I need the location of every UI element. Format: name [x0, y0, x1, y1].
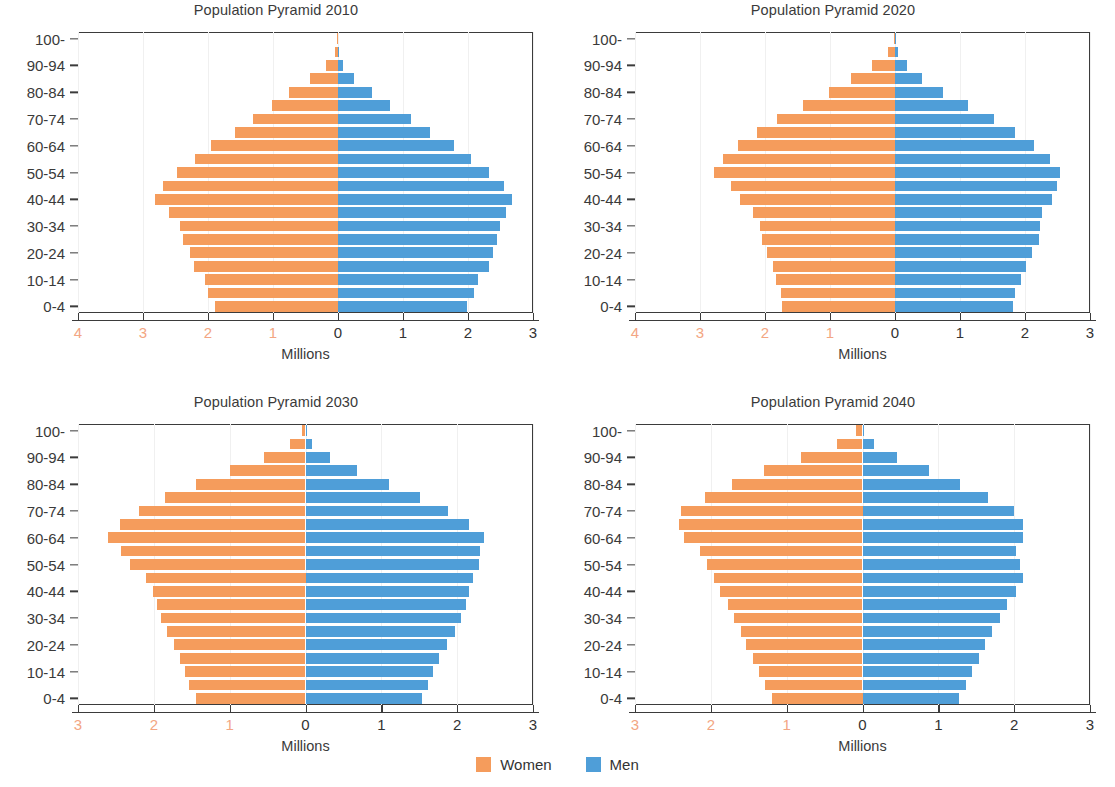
- bar-women: [731, 181, 895, 192]
- bar-men: [863, 546, 1016, 557]
- pyramid-row: [78, 100, 533, 111]
- bar-women: [753, 207, 895, 218]
- y-tick-mark: [70, 145, 78, 146]
- bar-women: [272, 100, 338, 111]
- y-tick-label: 0-4: [600, 691, 622, 706]
- bar-men: [338, 234, 497, 245]
- x-tick-mark: [863, 705, 864, 713]
- bar-women: [759, 666, 863, 677]
- x-axis: 43210123Millions: [635, 313, 1090, 365]
- bar-women: [776, 274, 895, 285]
- y-tick-label: 100-: [35, 31, 65, 46]
- chart-panel: Population Pyramid 20200-410-1420-2430-3…: [557, 0, 1109, 365]
- bar-men: [863, 693, 959, 704]
- pyramid-row: [78, 33, 533, 44]
- pyramid-row: [635, 492, 1090, 503]
- y-tick-label: 50-54: [584, 165, 622, 180]
- x-tick-label: 3: [139, 325, 147, 340]
- bar-men: [895, 181, 1057, 192]
- pyramid-row: [635, 221, 1090, 232]
- pyramid-row: [78, 114, 533, 125]
- legend-swatch-icon: [476, 757, 491, 772]
- y-tick-mark: [70, 65, 78, 66]
- bar-women: [196, 479, 306, 490]
- pyramid-row: [635, 666, 1090, 677]
- bar-men: [895, 87, 943, 98]
- bar-men: [863, 639, 986, 650]
- pyramid-row: [635, 114, 1090, 125]
- bar-women: [290, 439, 306, 450]
- bar-men: [338, 167, 489, 178]
- pyramid-row: [635, 167, 1090, 178]
- pyramid-row: [78, 261, 533, 272]
- bar-men: [338, 87, 372, 98]
- y-tick-label: 80-84: [584, 477, 622, 492]
- y-tick-mark: [70, 484, 78, 485]
- y-tick-label: 50-54: [584, 557, 622, 572]
- pyramid-row: [635, 87, 1090, 98]
- y-axis: 0-410-1420-2430-3440-4450-5460-6470-7480…: [557, 32, 635, 313]
- bar-men: [895, 33, 896, 44]
- y-tick-mark: [627, 65, 635, 66]
- bar-series-container: [635, 424, 1090, 705]
- x-tick-label: 2: [707, 717, 715, 732]
- x-tick-mark: [457, 705, 458, 713]
- x-tick-mark: [1090, 313, 1091, 321]
- y-tick-label: 80-84: [27, 85, 65, 100]
- bar-men: [863, 425, 865, 436]
- bar-men: [338, 288, 474, 299]
- x-tick-mark: [533, 705, 534, 713]
- bar-women: [253, 114, 338, 125]
- bar-women: [767, 247, 895, 258]
- x-tick-mark: [78, 313, 79, 321]
- bar-women: [180, 221, 338, 232]
- y-axis: 0-410-1420-2430-3440-4450-5460-6470-7480…: [0, 32, 78, 313]
- y-tick-label: 60-64: [584, 530, 622, 545]
- bar-women: [326, 60, 338, 71]
- bar-men: [895, 261, 1026, 272]
- bar-men: [306, 506, 449, 517]
- y-tick-mark: [627, 172, 635, 173]
- bar-men: [338, 221, 500, 232]
- x-axis-title: Millions: [78, 346, 533, 362]
- pyramid-row: [635, 559, 1090, 570]
- pyramid-row: [635, 194, 1090, 205]
- bar-men: [338, 114, 411, 125]
- y-tick-label: 40-44: [584, 192, 622, 207]
- x-tick-mark: [468, 313, 469, 321]
- x-tick-mark: [381, 705, 382, 713]
- bar-men: [338, 100, 390, 111]
- pyramid-row: [635, 127, 1090, 138]
- pyramid-row: [635, 47, 1090, 58]
- bar-men: [338, 73, 354, 84]
- x-tick-mark: [1025, 313, 1026, 321]
- x-tick-label: 2: [204, 325, 212, 340]
- pyramid-row: [78, 60, 533, 71]
- y-tick-label: 100-: [35, 423, 65, 438]
- pyramid-row: [78, 167, 533, 178]
- x-tick-mark: [533, 313, 534, 321]
- y-tick-label: 90-94: [27, 58, 65, 73]
- bar-men: [895, 73, 922, 84]
- bar-women: [190, 247, 338, 258]
- x-tick-mark: [273, 313, 274, 321]
- y-tick-mark: [627, 92, 635, 93]
- x-tick-mark: [960, 313, 961, 321]
- bar-men: [863, 573, 1024, 584]
- x-tick-label: 2: [453, 717, 461, 732]
- x-tick-label: 1: [826, 325, 834, 340]
- bar-men: [863, 653, 980, 664]
- bar-men: [895, 140, 1034, 151]
- pyramid-row: [635, 639, 1090, 650]
- bar-women: [738, 140, 895, 151]
- bar-women: [714, 573, 863, 584]
- x-tick-label: 2: [761, 325, 769, 340]
- y-tick-label: 70-74: [584, 111, 622, 126]
- x-tick-mark: [635, 313, 636, 321]
- y-tick-label: 40-44: [584, 584, 622, 599]
- y-tick-label: 0-4: [43, 691, 65, 706]
- pyramid-row: [78, 247, 533, 258]
- x-tick-mark: [830, 313, 831, 321]
- bar-women: [163, 181, 339, 192]
- legend-item-men: Men: [586, 757, 639, 772]
